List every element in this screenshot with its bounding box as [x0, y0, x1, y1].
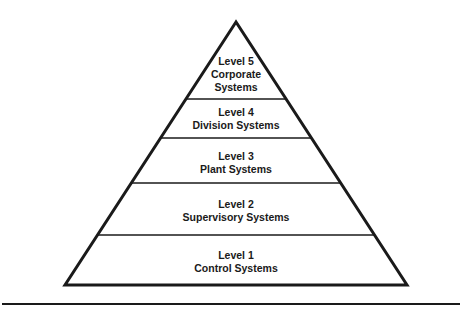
level-1-title: Level 1 [116, 249, 356, 262]
level-5-title: Level 5 [116, 55, 356, 68]
level-5-label: Level 5 Corporate Systems [116, 55, 356, 94]
level-1-label: Level 1 Control Systems [116, 249, 356, 275]
level-3-label: Level 3 Plant Systems [116, 150, 356, 176]
level-4-title: Level 4 [116, 106, 356, 119]
level-1-subtitle: Control Systems [116, 262, 356, 275]
level-2-label: Level 2 Supervisory Systems [116, 198, 356, 224]
level-4-label: Level 4 Division Systems [116, 106, 356, 132]
level-5-subtitle2: Systems [116, 81, 356, 94]
level-4-subtitle: Division Systems [116, 119, 356, 132]
level-2-subtitle: Supervisory Systems [116, 211, 356, 224]
level-2-title: Level 2 [116, 198, 356, 211]
level-3-title: Level 3 [116, 150, 356, 163]
level-5-subtitle: Corporate [116, 68, 356, 81]
level-3-subtitle: Plant Systems [116, 163, 356, 176]
